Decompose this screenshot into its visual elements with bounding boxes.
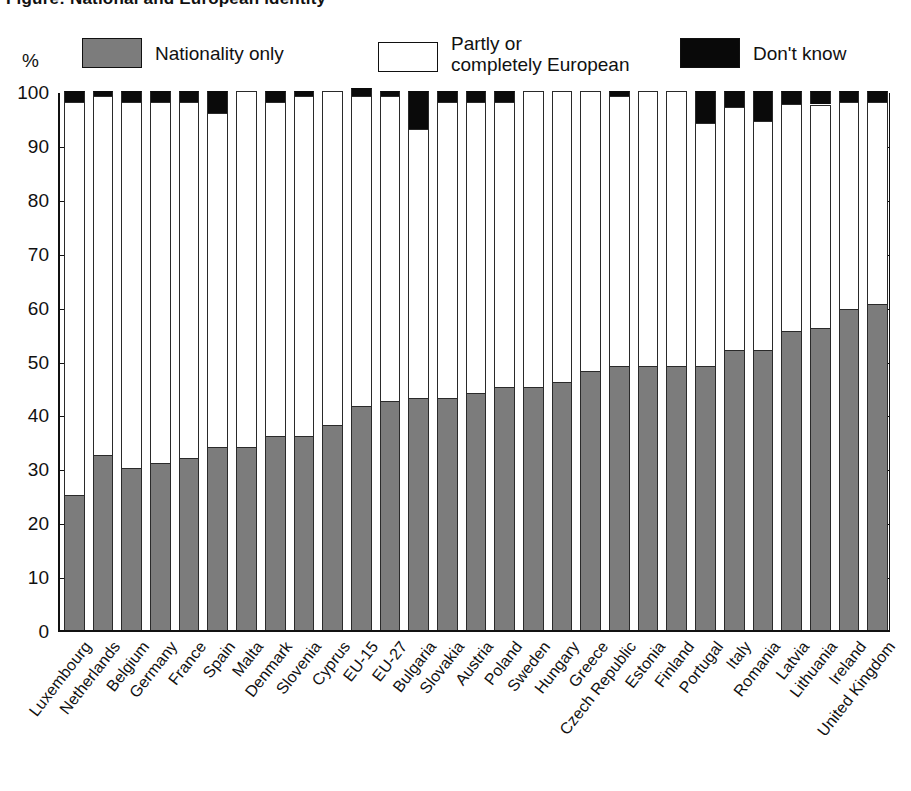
stacked-bar[interactable] — [552, 91, 573, 630]
bar-segment-partly-or-completely-european — [839, 102, 860, 310]
stacked-bar[interactable] — [265, 91, 286, 630]
y-axis-tick-label: 30 — [1, 459, 49, 481]
bar-segment-partly-or-completely-european — [322, 91, 343, 425]
bar-segment-dont-know — [380, 91, 401, 96]
bar-segment-partly-or-completely-european — [523, 91, 544, 387]
bar-segment-partly-or-completely-european — [121, 102, 142, 469]
bar-segment-partly-or-completely-european — [408, 129, 429, 399]
bar-segment-partly-or-completely-european — [179, 102, 200, 458]
stacked-bar[interactable] — [408, 91, 429, 630]
bar-segment-nationality-only — [753, 350, 774, 630]
bar-segment-dont-know — [150, 91, 171, 102]
y-axis-tick-label: 70 — [1, 244, 49, 266]
bar-segment-partly-or-completely-european — [695, 123, 716, 366]
bar-segment-dont-know — [437, 91, 458, 102]
y-axis-tick-label: 0 — [1, 621, 49, 643]
bar-segment-nationality-only — [64, 495, 85, 630]
bar-segment-nationality-only — [380, 401, 401, 630]
y-axis-tick-label: 80 — [1, 190, 49, 212]
bar-segment-partly-or-completely-european — [609, 96, 630, 366]
stacked-bar[interactable] — [150, 91, 171, 630]
bar-segment-dont-know — [753, 91, 774, 121]
bar-segment-partly-or-completely-european — [638, 91, 659, 366]
stacked-bar[interactable] — [609, 91, 630, 630]
stacked-bar[interactable] — [351, 91, 372, 630]
stacked-bar[interactable] — [724, 91, 745, 630]
bar-segment-nationality-only — [150, 463, 171, 630]
bar-segment-partly-or-completely-european — [666, 91, 687, 366]
stacked-bar[interactable] — [236, 91, 257, 630]
bar-segment-partly-or-completely-european — [93, 96, 114, 454]
stacked-bar[interactable] — [839, 91, 860, 630]
bar-segment-dont-know — [810, 91, 831, 104]
stacked-bar[interactable] — [294, 91, 315, 630]
bar-segment-dont-know — [724, 91, 745, 107]
stacked-bar[interactable] — [580, 91, 601, 630]
bar-segment-dont-know — [494, 91, 515, 102]
bar-segment-partly-or-completely-european — [207, 113, 228, 447]
bar-segment-dont-know — [265, 91, 286, 102]
bar-segment-nationality-only — [93, 455, 114, 630]
bar-segment-nationality-only — [466, 393, 487, 630]
bar-segment-partly-or-completely-european — [466, 102, 487, 393]
bar-segment-dont-know — [781, 91, 802, 104]
bar-segment-dont-know — [294, 91, 315, 96]
bar-segment-partly-or-completely-european — [64, 102, 85, 495]
bar-segment-dont-know — [64, 91, 85, 102]
stacked-bar[interactable] — [810, 91, 831, 630]
stacked-bar[interactable] — [207, 91, 228, 630]
bar-segment-dont-know — [609, 91, 630, 96]
bar-segment-dont-know — [839, 91, 860, 102]
stacked-bar[interactable] — [437, 91, 458, 630]
stacked-bar[interactable] — [753, 91, 774, 630]
y-axis-tick-label: 40 — [1, 405, 49, 427]
bar-segment-nationality-only — [121, 468, 142, 630]
stacked-bar[interactable] — [781, 91, 802, 630]
stacked-bar[interactable] — [666, 91, 687, 630]
stacked-bar[interactable] — [179, 91, 200, 630]
bar-segment-nationality-only — [810, 328, 831, 630]
bar-segment-nationality-only — [207, 447, 228, 630]
bar-segment-nationality-only — [179, 458, 200, 630]
stacked-bar[interactable] — [867, 91, 888, 630]
stacked-bar[interactable] — [466, 91, 487, 630]
bar-segment-nationality-only — [494, 387, 515, 630]
bar-segment-partly-or-completely-european — [781, 104, 802, 330]
bar-segment-partly-or-completely-european — [580, 91, 601, 371]
bar-segment-partly-or-completely-european — [294, 96, 315, 436]
bar-segment-partly-or-completely-european — [437, 102, 458, 398]
y-axis-tick-label: 60 — [1, 298, 49, 320]
bar-segment-nationality-only — [437, 398, 458, 630]
bar-segment-dont-know — [179, 91, 200, 102]
bar-segment-partly-or-completely-european — [351, 96, 372, 406]
bar-segment-dont-know — [408, 91, 429, 129]
bar-segment-nationality-only — [609, 366, 630, 630]
stacked-bar[interactable] — [121, 91, 142, 630]
stacked-bar[interactable] — [523, 91, 544, 630]
bar-segment-nationality-only — [408, 398, 429, 630]
stacked-bar[interactable] — [695, 91, 716, 630]
bar-segment-dont-know — [867, 91, 888, 102]
y-axis-tick-label: 10 — [1, 567, 49, 589]
bar-segment-partly-or-completely-european — [753, 121, 774, 350]
stacked-bar[interactable] — [322, 91, 343, 630]
bar-segment-nationality-only — [322, 425, 343, 630]
bar-segment-partly-or-completely-european — [552, 91, 573, 382]
stacked-bar[interactable] — [380, 91, 401, 630]
bar-segment-nationality-only — [236, 447, 257, 630]
bar-segment-nationality-only — [839, 309, 860, 630]
stacked-bar[interactable] — [93, 91, 114, 630]
bar-segment-nationality-only — [294, 436, 315, 630]
bar-segment-partly-or-completely-european — [380, 96, 401, 401]
bar-segment-nationality-only — [867, 304, 888, 630]
bar-segment-partly-or-completely-european — [724, 107, 745, 350]
y-axis-tick-label: 20 — [1, 513, 49, 535]
stacked-bar[interactable] — [64, 91, 85, 630]
bar-segment-nationality-only — [695, 366, 716, 630]
bar-segment-nationality-only — [781, 331, 802, 630]
stacked-bar[interactable] — [494, 91, 515, 630]
bar-segment-dont-know — [207, 91, 228, 113]
bar-segment-partly-or-completely-european — [867, 102, 888, 304]
stacked-bar[interactable] — [638, 91, 659, 630]
bar-segment-dont-know — [93, 91, 114, 96]
